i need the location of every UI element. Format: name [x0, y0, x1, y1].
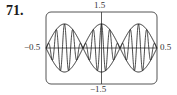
y-min-label: −1.5 [90, 84, 106, 94]
x-min-label: −0.5 [24, 42, 40, 52]
x-max-label: 0.5 [160, 42, 171, 52]
y-max-label: 1.5 [94, 0, 105, 10]
